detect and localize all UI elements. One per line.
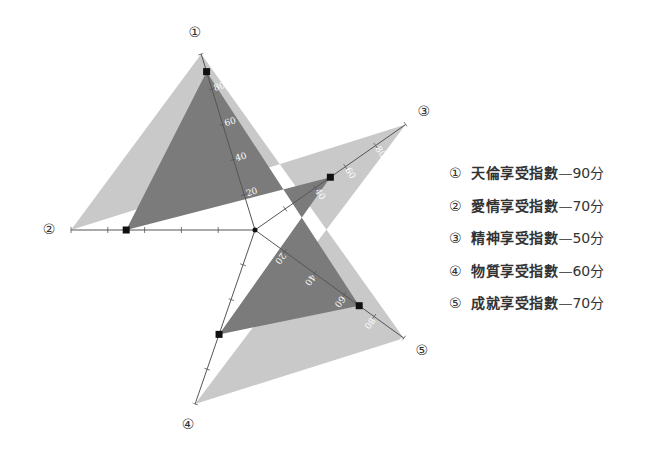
- legend-item: ③ 精神享受指數—50分: [449, 225, 604, 258]
- legend-score: 60分: [572, 263, 604, 279]
- tick-label: 20: [283, 208, 298, 223]
- legend-label: 成就享受指數: [471, 295, 558, 311]
- legend-label: 天倫享受指數: [471, 165, 558, 181]
- tick-label: 80: [102, 237, 114, 247]
- data-point-marker: [216, 331, 223, 338]
- legend-separator: —: [558, 230, 572, 246]
- outer-range-polygon: [71, 54, 406, 404]
- legend-score: 50分: [572, 230, 604, 246]
- axis-number-label: ⑤: [415, 342, 428, 358]
- legend-number: ③: [449, 225, 467, 251]
- tick-label: 40: [176, 237, 188, 247]
- legend-label: 精神享受指數: [471, 230, 558, 246]
- legend-label: 物質享受指數: [471, 263, 558, 279]
- legend-number: ④: [449, 258, 467, 284]
- legend-separator: —: [558, 198, 572, 214]
- legend-score: 70分: [572, 295, 604, 311]
- tick-label: 20: [228, 256, 242, 269]
- legend-number: ②: [449, 193, 467, 219]
- legend-item: ① 天倫享受指數—90分: [449, 160, 604, 193]
- tick-label: 40: [216, 291, 230, 304]
- tick-label: 60: [139, 237, 151, 247]
- tick-label: 20: [212, 237, 224, 247]
- legend-item: ② 愛情享受指數—70分: [449, 193, 604, 226]
- tick-label: 100: [177, 394, 197, 409]
- data-point-marker: [327, 174, 334, 181]
- axis-number-label: ③: [418, 103, 431, 119]
- legend-score: 70分: [572, 198, 604, 214]
- axis-number-label: ①: [188, 24, 201, 40]
- tick-label: 100: [199, 44, 219, 59]
- legend-number: ⑤: [449, 290, 467, 316]
- data-point-marker: [203, 68, 210, 75]
- axis-number-label: ④: [182, 416, 195, 432]
- tick-label: 100: [62, 237, 79, 247]
- tick-label: 100: [402, 121, 420, 141]
- legend-separator: —: [558, 295, 572, 311]
- tick-label: 80: [192, 360, 206, 373]
- legend-number: ①: [449, 160, 467, 186]
- legend-item: ⑤ 成就享受指數—70分: [449, 290, 604, 323]
- data-point-marker: [356, 302, 363, 309]
- legend: ① 天倫享受指數—90分 ② 愛情享受指數—70分 ③ 精神享受指數—50分 ④…: [449, 160, 604, 323]
- legend-score: 90分: [572, 165, 604, 181]
- axis-number-label: ②: [43, 221, 56, 237]
- center-point: [253, 228, 258, 233]
- legend-item: ④ 物質享受指數—60分: [449, 258, 604, 291]
- legend-label: 愛情享受指數: [471, 198, 558, 214]
- data-point-marker: [123, 227, 130, 234]
- legend-separator: —: [558, 165, 572, 181]
- legend-separator: —: [558, 263, 572, 279]
